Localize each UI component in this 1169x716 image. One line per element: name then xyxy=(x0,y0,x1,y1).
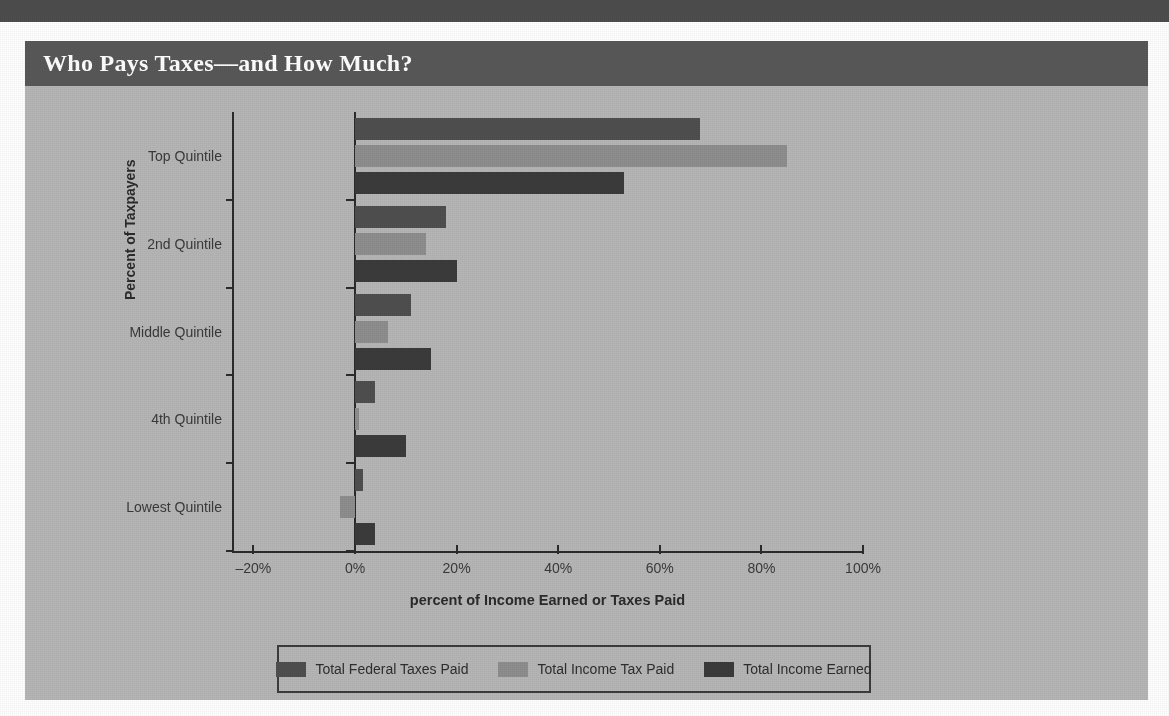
group-separator-tick xyxy=(346,462,355,464)
y-axis-category-label: 2nd Quintile xyxy=(147,236,222,252)
y-axis-tick xyxy=(226,374,234,376)
group-separator-tick xyxy=(346,199,355,201)
legend-label: Total Federal Taxes Paid xyxy=(315,661,468,677)
x-axis-tick-label: 100% xyxy=(845,560,881,576)
bar xyxy=(355,321,388,343)
legend-entry[interactable]: Total Income Tax Paid xyxy=(498,661,674,677)
legend-swatch xyxy=(704,662,734,677)
bar xyxy=(355,260,457,282)
x-axis-tick-label: 40% xyxy=(544,560,572,576)
y-axis-category-labels: Top Quintile2nd QuintileMiddle Quintile4… xyxy=(100,0,222,716)
legend-entry[interactable]: Total Income Earned xyxy=(704,661,871,677)
y-axis-tick xyxy=(226,462,234,464)
y-axis-category-label: Lowest Quintile xyxy=(126,499,222,515)
y-axis-tick xyxy=(226,287,234,289)
x-axis-tick xyxy=(862,545,864,554)
bar xyxy=(355,233,426,255)
legend-swatch xyxy=(498,662,528,677)
bar xyxy=(355,408,359,430)
bar xyxy=(355,294,411,316)
x-axis-tick xyxy=(557,545,559,554)
bar xyxy=(340,496,355,518)
bar xyxy=(355,381,375,403)
y-axis-category-label: Top Quintile xyxy=(148,148,222,164)
x-axis-tick-label: –20% xyxy=(235,560,271,576)
x-axis-title: percent of Income Earned or Taxes Paid xyxy=(232,592,863,608)
x-axis-tick-label: 80% xyxy=(747,560,775,576)
x-axis-tick xyxy=(456,545,458,554)
x-axis-tick xyxy=(659,545,661,554)
y-axis-category-label: Middle Quintile xyxy=(129,324,222,340)
bar xyxy=(355,435,406,457)
group-separator-tick xyxy=(346,550,355,552)
y-axis-tick xyxy=(226,199,234,201)
bar xyxy=(355,348,431,370)
x-axis-tick xyxy=(760,545,762,554)
legend-entry[interactable]: Total Federal Taxes Paid xyxy=(276,661,468,677)
bar xyxy=(355,118,700,140)
bar xyxy=(355,469,363,491)
y-axis-category-label: 4th Quintile xyxy=(151,411,222,427)
bar xyxy=(355,206,446,228)
y-axis-tick xyxy=(226,550,234,552)
x-axis-tick-label: 60% xyxy=(646,560,674,576)
bar xyxy=(355,172,624,194)
chart-legend: Total Federal Taxes PaidTotal Income Tax… xyxy=(277,645,871,693)
x-axis-tick-label: 0% xyxy=(345,560,365,576)
x-axis-line xyxy=(232,551,863,553)
legend-label: Total Income Tax Paid xyxy=(537,661,674,677)
group-separator-tick xyxy=(346,374,355,376)
group-separator-tick xyxy=(346,287,355,289)
page-title: Who Pays Taxes—and How Much? xyxy=(43,50,413,77)
bar xyxy=(355,145,787,167)
legend-swatch xyxy=(276,662,306,677)
legend-label: Total Income Earned xyxy=(743,661,871,677)
x-axis-tick xyxy=(252,545,254,554)
x-axis-tick-label: 20% xyxy=(443,560,471,576)
y-axis-line xyxy=(232,112,234,552)
bar xyxy=(355,523,375,545)
